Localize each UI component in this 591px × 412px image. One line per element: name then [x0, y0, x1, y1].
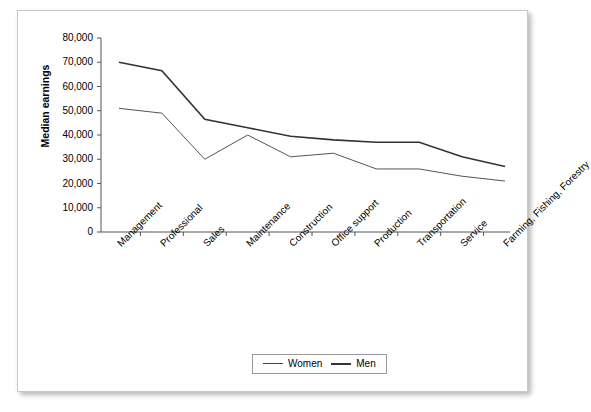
y-tick-label: 10,000 — [43, 203, 93, 213]
chart-series — [119, 62, 505, 181]
chart-legend: Women Men — [252, 354, 387, 374]
legend-line-swatch-women — [263, 363, 283, 364]
legend-item-women: Women — [263, 358, 322, 369]
y-tick-label: 0 — [43, 227, 93, 237]
y-tick-label: 80,000 — [43, 33, 93, 43]
legend-label-men: Men — [356, 358, 375, 369]
legend-label-women: Women — [288, 358, 322, 369]
y-axis-title: Median earnings — [39, 51, 51, 161]
y-tick-label: 20,000 — [43, 179, 93, 189]
legend-item-men: Men — [331, 358, 375, 369]
legend-line-swatch-men — [331, 363, 351, 365]
